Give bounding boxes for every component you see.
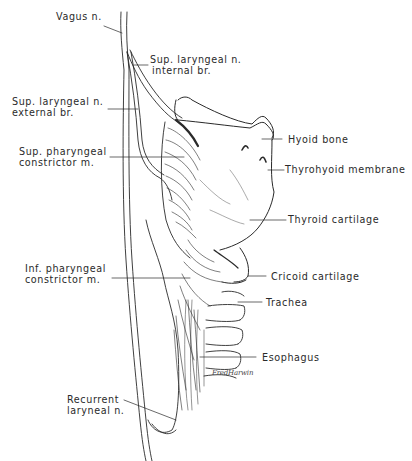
- esophagus: [185, 300, 198, 410]
- label-sup-laryngeal-internal-line1: Sup. laryngeal n.: [150, 54, 242, 65]
- vagus-nerve: [121, 12, 152, 461]
- sup-pharyngeal-constrictor: [161, 120, 200, 258]
- hyoid-bone: [175, 97, 274, 162]
- label-trachea: Trachea: [266, 297, 308, 308]
- label-sup-pharyngeal-line2: constrictor m.: [19, 157, 94, 168]
- label-sup-laryngeal-external-line1: Sup. laryngeal n.: [12, 96, 104, 107]
- artist-signature: FredHarwin: [212, 369, 253, 377]
- label-sup-laryngeal-external-line2: external br.: [12, 107, 74, 118]
- label-vagus-nerve: Vagus n.: [56, 11, 102, 22]
- label-inf-pharyngeal-line1: Inf. pharyngeal: [25, 263, 106, 274]
- leader-vagus: [104, 26, 122, 33]
- inf-pharyngeal-constrictor: [174, 240, 238, 410]
- label-hyoid-bone: Hyoid bone: [288, 134, 349, 145]
- larynx-diagram: Vagus n. Sup. laryngeal n. internal br. …: [0, 0, 412, 461]
- label-cricoid-cartilage: Cricoid cartilage: [271, 271, 360, 282]
- leader-lines: [104, 26, 286, 420]
- label-thyroid-cartilage: Thyroid cartilage: [288, 214, 379, 225]
- label-recurrent-laryngeal-line1: Recurrent: [67, 394, 119, 405]
- label-sup-pharyngeal-line1: Sup. pharyngeal: [19, 146, 107, 157]
- label-sup-laryngeal-internal-line2: internal br.: [152, 65, 211, 76]
- recurrent-laryngeal-nerve: [146, 220, 179, 434]
- label-inf-pharyngeal-line2: constrictor m.: [25, 274, 100, 285]
- label-recurrent-laryngeal-line2: laryneal n.: [67, 405, 124, 416]
- leader-recurrent: [124, 400, 176, 420]
- label-thyrohyoid-membrane: Thyrohyoid membrane: [285, 164, 406, 175]
- label-esophagus: Esophagus: [262, 352, 320, 363]
